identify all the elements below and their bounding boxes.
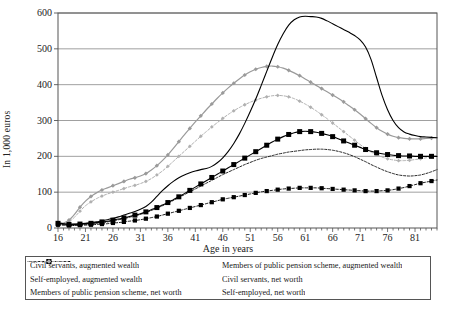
series-civil-servants-net-worth xyxy=(58,149,437,225)
series-marker xyxy=(199,203,203,207)
series-marker xyxy=(177,209,181,213)
series-marker xyxy=(309,186,313,190)
series-marker xyxy=(308,129,313,134)
series-marker xyxy=(331,187,335,191)
series-marker xyxy=(133,218,137,222)
legend-item[interactable]: Civil servants, net worth xyxy=(222,272,436,286)
series-marker xyxy=(111,190,115,194)
series-marker xyxy=(155,214,159,218)
legend-item[interactable]: Self-employed, augmented wealth xyxy=(30,272,222,286)
series-marker xyxy=(320,186,324,190)
series-marker xyxy=(408,158,412,162)
series-marker xyxy=(144,180,148,184)
series-members-of-public-pension-scheme-augmented-wealth xyxy=(56,129,438,227)
series-marker xyxy=(429,136,433,140)
series-marker xyxy=(287,186,291,190)
series-marker xyxy=(342,130,346,134)
legend-item[interactable]: Members of public pension scheme, net wo… xyxy=(30,286,222,300)
series-marker xyxy=(242,156,247,161)
series-marker xyxy=(276,188,280,192)
series-marker xyxy=(385,152,390,157)
series-marker xyxy=(221,197,225,201)
series-marker xyxy=(276,65,280,69)
series-marker xyxy=(286,132,291,137)
series-marker xyxy=(374,189,378,193)
series-marker xyxy=(166,212,170,216)
series-marker xyxy=(100,194,104,198)
series-marker xyxy=(122,179,126,183)
series-marker xyxy=(287,68,291,72)
series-marker xyxy=(220,169,225,174)
series-marker xyxy=(341,138,346,143)
chart-legend: Civil servants, augmented wealthMembers … xyxy=(25,256,431,300)
series-marker xyxy=(264,143,269,148)
series-marker xyxy=(132,213,137,218)
series-marker xyxy=(363,189,367,193)
legend-item-label: Members of public pension scheme, net wo… xyxy=(30,288,182,297)
series-marker xyxy=(111,184,115,188)
series-marker xyxy=(265,189,269,193)
series-line xyxy=(58,149,437,225)
series-marker xyxy=(209,175,214,180)
series-marker xyxy=(298,99,302,103)
series-line xyxy=(58,131,437,224)
series-marker xyxy=(407,184,411,188)
series-marker xyxy=(265,95,269,99)
series-marker xyxy=(231,162,236,167)
series-marker xyxy=(254,191,258,195)
series-marker xyxy=(198,181,203,186)
series-marker xyxy=(154,205,159,210)
series-marker xyxy=(397,159,401,163)
series-marker xyxy=(407,137,411,141)
series-marker xyxy=(276,94,280,98)
series-marker xyxy=(188,206,192,210)
series-marker xyxy=(254,67,258,71)
series-marker xyxy=(330,134,335,139)
series-marker xyxy=(243,193,247,197)
series-marker xyxy=(407,153,412,158)
legend-item-label: Members of public pension scheme, augmen… xyxy=(222,261,402,270)
series-marker xyxy=(429,154,434,159)
legend-item-label: Civil servants, net worth xyxy=(222,275,303,284)
series-marker xyxy=(396,186,400,190)
series-marker xyxy=(385,132,389,136)
series-marker xyxy=(342,188,346,192)
series-marker xyxy=(363,147,368,152)
series-marker xyxy=(144,217,148,221)
series-marker xyxy=(165,200,170,205)
series-marker xyxy=(298,186,302,190)
series-marker xyxy=(275,137,280,142)
series-marker xyxy=(287,95,291,99)
series-marker xyxy=(418,154,423,159)
series-marker xyxy=(386,157,390,161)
series-marker xyxy=(187,188,192,193)
series-marker xyxy=(429,179,433,183)
legend-item[interactable]: Self-employed, net worth xyxy=(222,286,436,300)
series-marker xyxy=(232,195,236,199)
series-marker xyxy=(353,188,357,192)
series-marker xyxy=(210,200,214,204)
legend-item-label: Self-employed, augmented wealth xyxy=(30,275,142,284)
series-marker xyxy=(396,136,400,140)
series-marker xyxy=(143,209,148,214)
series-marker xyxy=(297,129,302,134)
series-marker xyxy=(418,181,422,185)
series-marker xyxy=(396,153,401,158)
legend-item-label: Self-employed, net worth xyxy=(222,288,305,297)
series-marker xyxy=(385,188,389,192)
chart-figure: In 1,000 euros 0100200300400500600 16212… xyxy=(0,0,456,314)
series-marker xyxy=(122,187,126,191)
series-marker xyxy=(374,150,379,155)
series-marker xyxy=(253,149,258,154)
legend-item[interactable]: Members of public pension scheme, augmen… xyxy=(222,259,436,273)
series-marker xyxy=(100,188,104,192)
series-marker xyxy=(352,143,357,148)
series-line xyxy=(58,95,437,224)
series-marker xyxy=(133,183,137,187)
series-marker xyxy=(319,131,324,136)
series-marker xyxy=(133,176,137,180)
series-marker xyxy=(176,194,181,199)
series-marker xyxy=(243,103,247,107)
